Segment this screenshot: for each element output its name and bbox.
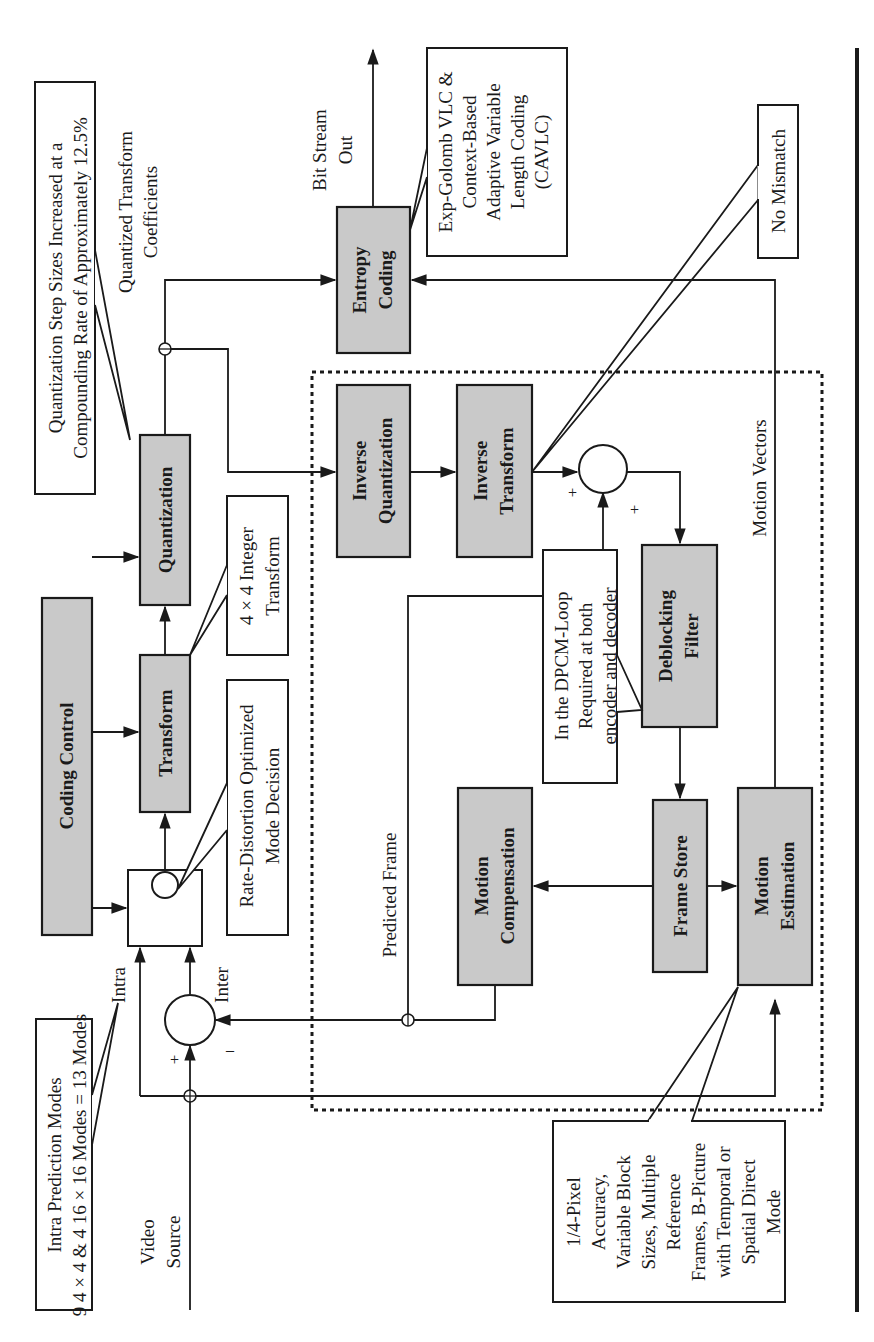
integer-transform-text-2: Transform xyxy=(262,536,283,616)
deblocking-filter-block xyxy=(642,545,717,727)
coding-control-label: Coding Control xyxy=(56,703,77,830)
bitstream-label-2: Out xyxy=(335,135,356,164)
adder-icon xyxy=(579,445,627,493)
motion-vectors-label: Motion Vectors xyxy=(749,419,770,536)
video-source-label-1: Video xyxy=(137,1219,158,1264)
mc-to-adder1-line xyxy=(216,985,495,1020)
h264-encoder-diagram: Coding Control Transform Quantization En… xyxy=(0,0,874,1342)
motion-detail-text-1: 1/4-Pixel xyxy=(563,1177,584,1247)
minus-sign: – xyxy=(225,1041,235,1058)
quantization-label: Quantization xyxy=(155,466,176,573)
quant-step-text-2: Compounding Rate of Approximately 12.5% xyxy=(70,117,91,459)
motion-detail-text-9: Mode xyxy=(763,1190,784,1234)
switch-pivot-icon xyxy=(152,872,178,898)
motion-compensation-block xyxy=(458,788,532,985)
intra-modes-text-2: 9 4 × 4 & 4 16 × 16 Modes = 13 Modes xyxy=(69,1014,90,1316)
motion-detail-text-7: with Temporal or xyxy=(713,1146,734,1278)
dpcm-text-1: In the DPCM-Loop xyxy=(551,592,572,741)
iq-label-2: Quantization xyxy=(375,417,396,524)
quant-step-text-1: Quantization Step Sizes Increased at a xyxy=(45,142,66,433)
integer-transform-text-1: 4 × 4 Integer xyxy=(236,526,257,624)
me-label-2: Estimation xyxy=(777,841,798,930)
inverse-quantization-block xyxy=(337,385,410,557)
motion-detail-text-4: Sizes, Multiple xyxy=(638,1154,659,1269)
entropy-detail-text-1: Exp-Golomb VLC & xyxy=(435,71,456,232)
entropy-coding-block xyxy=(337,207,410,353)
frame-store-label: Frame Store xyxy=(670,835,691,936)
mc-label-2: Compensation xyxy=(497,827,518,945)
mc-label-1: Motion xyxy=(471,856,492,916)
entropy-detail-text-3: Adaptive Variable xyxy=(483,83,504,220)
plus-sign-3: + xyxy=(630,501,639,518)
entropy-label-2: Coding xyxy=(375,250,396,310)
quantized-coeffs-label-2: Coefficients xyxy=(140,166,161,259)
inter-label: Inter xyxy=(211,966,232,1003)
entropy-label-1: Entropy xyxy=(349,246,370,314)
me-label-1: Motion xyxy=(751,856,772,916)
entropy-detail-text-4: Length Coding xyxy=(507,94,528,209)
deblocking-label-2: Filter xyxy=(681,613,702,659)
no-mismatch-text: No Mismatch xyxy=(768,129,789,233)
plus-sign-1: + xyxy=(170,1051,179,1068)
entropy-detail-text-2: Context-Based xyxy=(459,95,480,208)
dpcm-text-3: encoder and decoder xyxy=(599,587,620,745)
deblocking-label-1: Deblocking xyxy=(655,590,676,682)
rd-text-1: Rate-Distortion Optimized xyxy=(236,704,257,908)
transform-label: Transform xyxy=(155,689,176,776)
motion-detail-text-6: Frames, B-Picture xyxy=(688,1143,709,1281)
bitstream-label-1: Bit Stream xyxy=(309,109,330,191)
video-source-label-2: Source xyxy=(163,1216,184,1269)
dpcm-text-2: Required at both xyxy=(575,602,596,729)
predicted-frame-label: Predicted Frame xyxy=(379,832,400,957)
intra-label: Intra xyxy=(108,967,129,1003)
motion-detail-text-8: Spatial Direct xyxy=(738,1159,759,1265)
it-label-2: Transform xyxy=(496,427,517,514)
rd-text-2: Mode Decision xyxy=(262,747,283,864)
source-to-me-line xyxy=(140,1000,775,1096)
motion-detail-text-3: Variable Block xyxy=(613,1155,634,1269)
iq-label-1: Inverse xyxy=(349,441,370,501)
entropy-detail-text-5: (CAVLC) xyxy=(531,115,553,190)
it-label-1: Inverse xyxy=(470,441,491,501)
intra-modes-text-1: Intra Prediction Modes xyxy=(44,1077,65,1252)
motion-detail-text-2: Accuracy, xyxy=(588,1174,609,1250)
quantized-coeffs-label-1: Quantized Transform xyxy=(115,131,136,293)
inverse-transform-block xyxy=(457,385,532,557)
motion-estimation-block xyxy=(738,788,812,985)
motion-detail-text-5: Reference xyxy=(663,1174,684,1251)
quant-to-entropy-line xyxy=(165,280,335,435)
plus-sign-2: + xyxy=(568,484,577,501)
subtractor-icon xyxy=(165,995,215,1045)
